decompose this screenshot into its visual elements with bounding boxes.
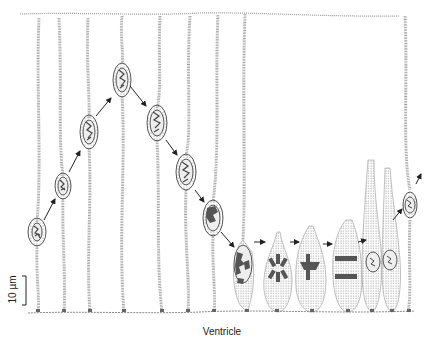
- chromatin: [34, 70, 189, 238]
- cell-nucleus-2: [55, 173, 71, 199]
- ventricular-surface: [28, 311, 415, 313]
- ventricle-label: Ventricle: [0, 326, 430, 337]
- cell-nucleus-1: [28, 218, 46, 246]
- cell-nucleus-g1-right: [403, 192, 417, 218]
- cell-nucleus-3: [80, 115, 98, 149]
- cell-nucleus-4: [113, 63, 131, 97]
- scale-bar-label: 10 µm: [4, 270, 26, 310]
- interkinetic-nuclear-migration-diagram: [0, 0, 430, 348]
- mitotic-cell-bodies: [234, 160, 401, 312]
- scale-bar-text: 10 µm: [7, 276, 18, 304]
- pial-surface: [20, 13, 400, 16]
- cell-nucleus-5: [147, 105, 167, 141]
